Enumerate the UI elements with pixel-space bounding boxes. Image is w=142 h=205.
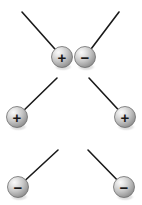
charge-sign-positive: + [58, 49, 67, 66]
charged-sphere-assembly[interactable]: − [8, 150, 59, 201]
charged-sphere-assembly[interactable]: + [7, 78, 58, 131]
charge-sign-negative: − [81, 49, 90, 66]
objects-layer: +−++−− [7, 12, 137, 201]
charged-sphere-assembly[interactable]: − [88, 150, 135, 201]
charged-sphere-assembly[interactable]: + [89, 78, 136, 131]
charge-sign-positive: + [13, 109, 22, 126]
charge-sign-positive: + [121, 109, 130, 126]
charge-sign-negative: − [120, 179, 129, 196]
row-1: +− [22, 12, 119, 71]
charged-sphere-assembly[interactable]: + [22, 12, 73, 71]
diagram-svg: +−++−− [0, 0, 142, 205]
row-2: ++ [7, 78, 137, 131]
charged-spheres-diagram: +−++−− [0, 0, 142, 205]
row-3: −− [8, 150, 136, 201]
charge-sign-negative: − [14, 179, 23, 196]
charged-sphere-assembly[interactable]: − [75, 12, 120, 71]
